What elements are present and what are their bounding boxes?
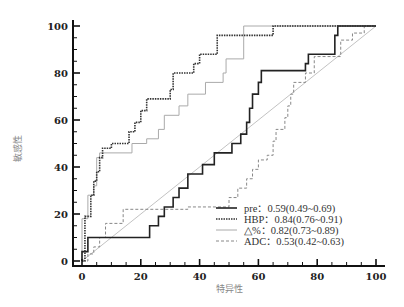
x-tick-label: 60 [251, 271, 265, 282]
y-tick-label: 20 [54, 209, 68, 220]
x-tick-label: 20 [134, 271, 148, 282]
y-axis-title: 敏感性 [12, 135, 23, 162]
y-tick-label: 0 [61, 256, 68, 267]
y-tick-label: 100 [47, 21, 68, 32]
x-tick-label: 100 [366, 271, 387, 282]
legend: pre：0.59(0.49~0.69)HBP：0.84(0.76~0.91)△%… [216, 203, 344, 248]
x-tick-label: 0 [79, 271, 86, 282]
x-tick-label: 40 [193, 271, 207, 282]
y-tick-label: 80 [54, 68, 68, 79]
x-axis-title: 特异性 [216, 283, 243, 294]
x-tick-label: 80 [310, 271, 324, 282]
roc-chart: 020406080100020406080100 敏感性 特异性 pre：0.5… [0, 0, 404, 307]
legend-label-ADC: ADC：0.53(0.42~0.63) [244, 236, 344, 248]
y-tick-label: 40 [54, 162, 68, 173]
y-tick-label: 60 [54, 115, 68, 126]
